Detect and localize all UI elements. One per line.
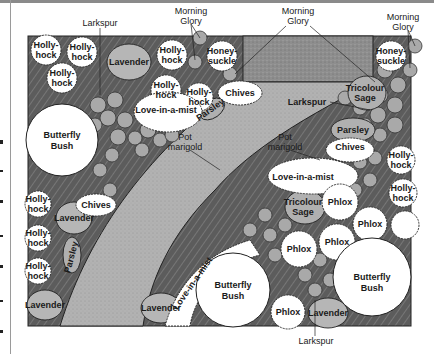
svg-text:hock: hock	[35, 50, 57, 60]
svg-text:suckle: suckle	[208, 56, 236, 66]
label-larkspur-bottom: Larkspur	[298, 336, 333, 346]
svg-text:Holly-: Holly-	[159, 45, 184, 55]
svg-text:Holly-: Holly-	[390, 183, 415, 193]
svg-text:Pot: Pot	[278, 132, 292, 142]
svg-text:hock: hock	[390, 160, 412, 170]
svg-text:hock: hock	[27, 271, 49, 281]
svg-text:Pot: Pot	[178, 132, 192, 142]
svg-text:Phlox: Phlox	[328, 197, 353, 207]
svg-text:Holly-: Holly-	[25, 228, 50, 238]
svg-text:hock: hock	[155, 90, 177, 100]
svg-text:marigold: marigold	[268, 142, 303, 152]
svg-text:Phlox: Phlox	[287, 244, 312, 254]
svg-text:Larkspur: Larkspur	[288, 97, 327, 107]
svg-text:Bush: Bush	[361, 283, 384, 293]
svg-text:Tricolour: Tricolour	[346, 83, 385, 93]
svg-text:Butterfly: Butterfly	[353, 272, 390, 282]
svg-text:Holly-: Holly-	[25, 261, 50, 271]
svg-text:Sage: Sage	[354, 93, 376, 103]
svg-text:hock: hock	[161, 55, 183, 65]
svg-text:Butterfly: Butterfly	[214, 280, 251, 290]
svg-text:Chives: Chives	[335, 142, 365, 152]
butterfly-bush	[26, 104, 98, 176]
svg-text:Love-in-a-mist: Love-in-a-mist	[272, 172, 334, 182]
svg-text:Butterfly: Butterfly	[43, 130, 80, 140]
svg-text:Chives: Chives	[81, 200, 111, 210]
svg-text:hock: hock	[27, 204, 49, 214]
svg-text:marigold: marigold	[168, 142, 203, 152]
svg-text:Holly-: Holly-	[25, 194, 50, 204]
svg-text:Lavender: Lavender	[109, 57, 150, 67]
svg-text:Holly-: Holly-	[186, 87, 211, 97]
svg-text:Phlox: Phlox	[276, 307, 301, 317]
label-morning-glory-right: Glory	[392, 22, 414, 32]
svg-text:Lavender: Lavender	[308, 308, 349, 318]
svg-text:Phlox: Phlox	[325, 237, 350, 247]
label-morning-glory-right: Morning	[387, 12, 420, 22]
svg-text:Chives: Chives	[225, 88, 255, 98]
garden-plan: Larkspur Morning Glory Morning Glory Mor…	[0, 0, 434, 354]
svg-text:Honey-: Honey-	[376, 46, 407, 56]
svg-text:Holly-: Holly-	[388, 150, 413, 160]
svg-text:hock: hock	[392, 193, 414, 203]
svg-text:Tricolour: Tricolour	[284, 197, 323, 207]
svg-text:Holly-: Holly-	[33, 40, 58, 50]
svg-text:Bush: Bush	[51, 141, 74, 151]
svg-text:Honey-: Honey-	[207, 46, 238, 56]
svg-text:hock: hock	[71, 52, 93, 62]
svg-text:Bush: Bush	[222, 291, 245, 301]
label-morning-glory-center: Glory	[287, 16, 309, 26]
hollyhock-plant	[391, 211, 419, 239]
svg-text:Holly-: Holly-	[49, 68, 74, 78]
svg-text:hock: hock	[27, 238, 49, 248]
svg-text:Phlox: Phlox	[358, 219, 383, 229]
svg-text:Sage: Sage	[292, 207, 314, 217]
label-morning-glory-left: Morning	[175, 6, 208, 16]
svg-text:suckle: suckle	[377, 56, 405, 66]
svg-text:Holly-: Holly-	[153, 80, 178, 90]
svg-text:hock: hock	[51, 78, 73, 88]
svg-text:Lavender: Lavender	[25, 300, 66, 310]
label-larkspur-top: Larkspur	[82, 18, 117, 28]
svg-text:Holly-: Holly-	[69, 42, 94, 52]
label-morning-glory-center: Morning	[282, 6, 315, 16]
label-morning-glory-left: Glory	[180, 16, 202, 26]
svg-text:Love-in-a-mist: Love-in-a-mist	[135, 105, 197, 115]
svg-text:Lavender: Lavender	[54, 213, 95, 223]
svg-text:Parsley: Parsley	[337, 125, 369, 135]
patio	[243, 36, 373, 82]
